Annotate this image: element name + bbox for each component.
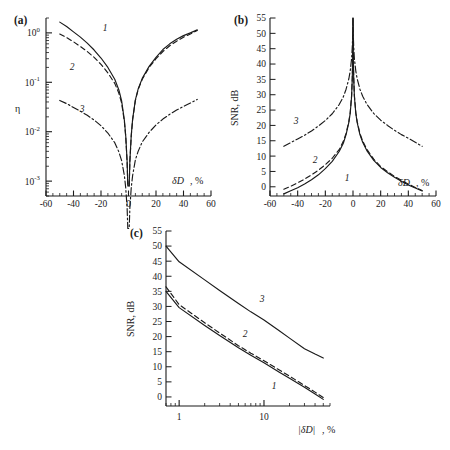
curve-label-1: 1 — [272, 381, 277, 391]
panel-c-ticks — [166, 231, 330, 406]
panel-a-y-axis-label: η — [15, 103, 20, 114]
tick-label: 10 — [257, 152, 267, 162]
tick-label: 45 — [153, 257, 163, 267]
panel-c-y-axis-label: SNR, dB — [125, 301, 136, 337]
panel-a-x-axis-unit: , % — [190, 175, 203, 186]
panel-a-tag: (a) — [14, 14, 28, 27]
curve-2 — [284, 18, 422, 190]
tick-label: 10 — [153, 362, 163, 372]
panel-c-curves — [166, 246, 323, 399]
tick-label: 0 — [126, 199, 131, 209]
tick-label: 15 — [257, 136, 267, 146]
tick-label: 60 — [431, 199, 441, 209]
panel-b-svg: 0510152025303540455055 -60-40-200204060 … — [222, 0, 450, 215]
panel-c-x-tick-labels: 110 — [177, 412, 269, 422]
tick-label: 35 — [153, 287, 163, 297]
curve-label-3: 3 — [79, 104, 85, 114]
tick-label: -60 — [40, 199, 53, 209]
tick-label: 1 — [177, 412, 182, 422]
curve-2 — [166, 287, 323, 398]
panel-a-ticks — [46, 18, 211, 196]
panel-b-x-axis-label: δD — [398, 177, 411, 188]
tick-label: 40 — [153, 272, 163, 282]
panel-c-x-axis-label: |δD| — [298, 424, 315, 435]
tick-label: 55 — [153, 226, 163, 236]
tick-label: 25 — [153, 317, 163, 327]
curve-label-3: 3 — [259, 294, 265, 304]
curve-label-1: 1 — [345, 173, 350, 183]
tick-label: 0 — [157, 392, 162, 402]
panel-b-y-tick-labels: 0510152025303540455055 — [257, 13, 267, 192]
tick-label: 50 — [257, 29, 267, 39]
tick-label: 20 — [257, 121, 267, 131]
panel-a-curve-labels: 123 — [70, 23, 108, 114]
curve-label-3: 3 — [293, 116, 299, 126]
tick-label: -40 — [67, 199, 80, 209]
panel-c: 0510152025303540455055 110 123 (c) SNR, … — [100, 215, 430, 450]
curve-3 — [60, 99, 198, 228]
tick-label: -20 — [319, 199, 332, 209]
panel-a-x-axis-label: δD — [172, 175, 185, 186]
curve-label-1: 1 — [103, 23, 108, 33]
panel-a-svg: 10010-110-210-3 -60-40-200204060 123 (a)… — [0, 0, 225, 215]
tick-label: 0 — [351, 199, 356, 209]
tick-label: 30 — [153, 302, 163, 312]
curve-3 — [284, 18, 422, 146]
curve-label-2: 2 — [70, 62, 75, 72]
tick-label: 20 — [153, 332, 163, 342]
tick-label: 20 — [376, 199, 386, 209]
panel-c-y-tick-labels: 0510152025303540455055 — [153, 226, 163, 402]
tick-label: 40 — [257, 59, 267, 69]
panel-b-tag: (b) — [234, 14, 248, 27]
tick-label: 10-3 — [25, 174, 41, 186]
tick-label: -40 — [291, 199, 304, 209]
panel-c-tag: (c) — [130, 227, 143, 240]
tick-label: 5 — [157, 377, 162, 387]
tick-label: 10-1 — [25, 75, 40, 87]
tick-label: 15 — [153, 347, 163, 357]
curve-label-2: 2 — [313, 155, 318, 165]
figure-root: 10010-110-210-3 -60-40-200204060 123 (a)… — [0, 0, 450, 450]
tick-label: 10-2 — [25, 125, 41, 137]
tick-label: 40 — [179, 199, 189, 209]
tick-label: 100 — [27, 26, 41, 38]
panel-c-svg: 0510152025303540455055 110 123 (c) SNR, … — [100, 215, 430, 450]
tick-label: -60 — [264, 199, 277, 209]
panel-c-curve-labels: 123 — [243, 294, 277, 391]
panel-a-curves — [60, 22, 198, 228]
panel-b-x-tick-labels: -60-40-200204060 — [264, 199, 441, 209]
tick-label: 10 — [259, 412, 269, 422]
tick-label: 55 — [257, 13, 267, 23]
tick-label: 60 — [206, 199, 216, 209]
tick-label: 5 — [261, 167, 266, 177]
panel-a: 10010-110-210-3 -60-40-200204060 123 (a)… — [0, 0, 225, 215]
panel-b-x-axis-unit: , % — [416, 177, 429, 188]
panel-a-y-tick-labels: 10010-110-210-3 — [25, 26, 41, 187]
tick-label: 0 — [261, 182, 266, 192]
tick-label: 50 — [153, 241, 163, 251]
panel-b-y-axis-label: SNR, dB — [229, 90, 240, 126]
tick-label: -20 — [95, 199, 108, 209]
tick-label: 30 — [257, 90, 267, 100]
panel-a-x-tick-labels: -60-40-200204060 — [40, 199, 216, 209]
tick-label: 35 — [257, 75, 267, 85]
tick-label: 25 — [257, 105, 267, 115]
tick-label: 20 — [151, 199, 161, 209]
panel-c-x-axis-unit: , % — [322, 424, 335, 435]
panel-b: 0510152025303540455055 -60-40-200204060 … — [222, 0, 450, 215]
tick-label: 40 — [404, 199, 414, 209]
panel-b-curves — [284, 18, 422, 194]
tick-label: 45 — [257, 44, 267, 54]
curve-3 — [166, 246, 323, 358]
curve-label-2: 2 — [243, 329, 248, 339]
